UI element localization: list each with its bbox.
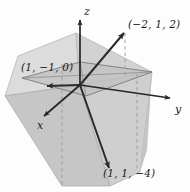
point-a-label: (−2, 1, 2) (128, 19, 180, 30)
vector-to-point-b (47, 85, 80, 86)
point-c-label: (1, 1, −4) (103, 168, 155, 179)
shaded-solid (5, 33, 152, 186)
point-b-label: (1, −1, 0) (21, 62, 73, 73)
vector-diagram: z y x (−2, 1, 2) (1, −1, 0) (1, 1, −4) (0, 0, 190, 192)
y-axis-label: y (175, 104, 181, 115)
z-axis-label: z (84, 6, 90, 17)
x-axis-label: x (37, 120, 43, 131)
